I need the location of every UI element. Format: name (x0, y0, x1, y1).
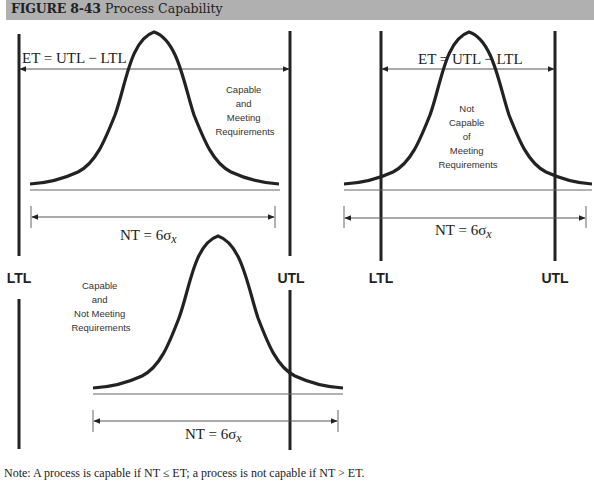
utl-label: UTL (277, 270, 305, 286)
process-capability-diagram: ET = UTL − LTL NT = 6σx Capable and Meet… (0, 0, 594, 484)
nt-label: NT = 6σx (185, 426, 242, 445)
panel-capable-not-meeting: NT = 6σx Capable and Not Meeting Require… (71, 236, 343, 450)
ltl-label: LTL (7, 270, 32, 286)
distribution-curve (93, 236, 343, 388)
nt-label: NT = 6σx (120, 227, 177, 246)
status-text: Capable and Meeting Requirements (215, 84, 274, 137)
et-label: ET = UTL − LTL (22, 50, 127, 66)
status-text: Not Capable of Meeting Requirements (438, 103, 497, 170)
figure-note: Note: A process is capable if NT ≤ ET; a… (4, 466, 365, 481)
nt-label: NT = 6σx (435, 222, 492, 241)
utl-label: UTL (541, 270, 569, 286)
ltl-label: LTL (369, 270, 394, 286)
status-text: Capable and Not Meeting Requirements (71, 280, 130, 333)
panel-not-capable: ET = UTL − LTL NT = 6σx Not Capable of M… (344, 31, 592, 286)
et-label: ET = UTL − LTL (418, 51, 523, 67)
panel-capable-meeting: ET = UTL − LTL NT = 6σx Capable and Meet… (7, 31, 305, 449)
